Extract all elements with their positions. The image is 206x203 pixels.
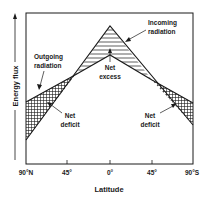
incoming-label-2: radiation xyxy=(148,28,175,35)
net-deficit-right-label-1: Net xyxy=(145,112,156,119)
net-deficit-right-arrow-icon xyxy=(171,104,176,108)
net-deficit-left-pointer xyxy=(50,104,62,113)
incoming-pointer xyxy=(128,30,146,40)
x-tick-45n: 45° xyxy=(62,169,72,176)
x-axis-label: Latitude xyxy=(94,185,123,194)
x-tick-90n: 90°N xyxy=(19,169,34,176)
x-tick-45s: 45° xyxy=(147,169,157,176)
outgoing-label-2: radiation xyxy=(34,62,61,69)
net-deficit-left-label-2: deficit xyxy=(60,121,80,128)
net-excess-region xyxy=(75,26,152,80)
net-deficit-right-label-2: deficit xyxy=(140,121,160,128)
x-tick-0: 0° xyxy=(107,169,114,176)
net-deficit-left-label-1: Net xyxy=(65,112,76,119)
y-axis-arrow-head-icon xyxy=(13,13,17,19)
incoming-pointer-arrow-icon xyxy=(125,37,131,42)
net-deficit-right-pointer xyxy=(160,106,173,113)
x-tick-90s: 90°S xyxy=(185,169,200,176)
outgoing-label-1: Outgoing xyxy=(34,53,63,61)
x-ticks xyxy=(67,160,152,164)
net-excess-label-1: Net xyxy=(105,64,116,71)
incoming-label-1: Incoming xyxy=(148,19,177,27)
energy-balance-diagram: 90°N 45° 0° 45° 90°S Latitude Energy flu… xyxy=(0,0,206,203)
outgoing-pointer xyxy=(40,71,44,86)
net-excess-label-2: excess xyxy=(99,73,121,80)
outgoing-pointer-arrow-icon xyxy=(37,84,42,90)
y-axis-label: Energy flux xyxy=(11,65,20,107)
